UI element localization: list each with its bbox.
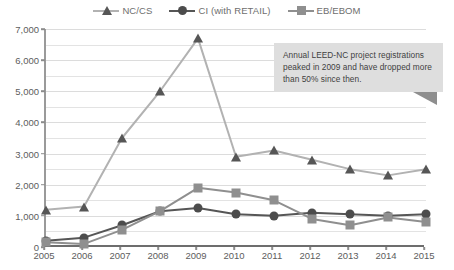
callout-box: Annual LEED-NC project registrations pea… — [274, 43, 443, 92]
square-icon — [288, 5, 314, 16]
data-point-eb-ebom[interactable] — [270, 196, 279, 205]
data-point-nc-cs[interactable] — [79, 202, 89, 211]
y-tick-label: 7,000 — [15, 24, 39, 35]
x-axis: 2005200620072008200920102011201220132014… — [44, 250, 424, 268]
data-point-nc-cs[interactable] — [345, 165, 355, 174]
data-point-eb-ebom[interactable] — [346, 221, 355, 230]
data-point-eb-ebom[interactable] — [308, 214, 317, 223]
x-tick-label: 2013 — [337, 250, 358, 261]
x-tick-mark — [157, 247, 159, 250]
y-tick-mark — [41, 59, 45, 61]
x-tick-mark — [43, 247, 45, 250]
y-tick-label: 4,000 — [15, 117, 39, 128]
data-point-eb-ebom[interactable] — [232, 188, 241, 197]
triangle-icon — [93, 5, 119, 16]
x-tick-label: 2008 — [147, 250, 168, 261]
chart-legend: NC/CS CI (with RETAIL) EB/EBOM — [0, 5, 454, 16]
data-point-eb-ebom[interactable] — [194, 183, 203, 192]
x-tick-label: 2007 — [109, 250, 130, 261]
data-point-nc-cs[interactable] — [117, 134, 127, 143]
data-point-ci-with-retail[interactable] — [346, 210, 355, 219]
x-tick-label: 2009 — [185, 250, 206, 261]
legend-entry-ci-retail[interactable]: CI (with RETAIL) — [169, 5, 270, 16]
legend-label-ci-retail: CI (with RETAIL) — [198, 5, 270, 16]
x-tick-label: 2015 — [413, 250, 434, 261]
data-point-eb-ebom[interactable] — [156, 207, 165, 216]
legend-label-nc-cs: NC/CS — [122, 5, 152, 16]
y-tick-mark — [41, 28, 45, 30]
x-tick-mark — [347, 247, 349, 250]
legend-label-eb-ebom: EB/EBOM — [317, 5, 361, 16]
y-tick-label: 1,000 — [15, 210, 39, 221]
x-tick-label: 2014 — [375, 250, 396, 261]
x-tick-mark — [423, 247, 425, 250]
x-tick-mark — [119, 247, 121, 250]
x-tick-label: 2012 — [299, 250, 320, 261]
data-point-nc-cs[interactable] — [231, 152, 241, 161]
y-tick-label: 3,000 — [15, 148, 39, 159]
y-tick-mark — [41, 184, 45, 186]
data-point-nc-cs[interactable] — [269, 146, 279, 155]
data-point-nc-cs[interactable] — [41, 205, 51, 214]
data-point-nc-cs[interactable] — [421, 165, 431, 174]
data-point-nc-cs[interactable] — [193, 34, 203, 43]
x-tick-label: 2011 — [262, 250, 282, 261]
legend-entry-nc-cs[interactable]: NC/CS — [93, 5, 152, 16]
chart-container: NC/CS CI (with RETAIL) EB/EBOM 01,0002,0… — [0, 0, 454, 270]
circle-icon — [169, 5, 195, 16]
data-point-eb-ebom[interactable] — [422, 218, 431, 227]
data-point-ci-with-retail[interactable] — [270, 211, 279, 220]
x-tick-label: 2005 — [33, 250, 54, 261]
data-point-eb-ebom[interactable] — [384, 213, 393, 222]
x-tick-mark — [271, 247, 273, 250]
y-tick-label: 2,000 — [15, 179, 39, 190]
x-tick-mark — [309, 247, 311, 250]
data-point-ci-with-retail[interactable] — [232, 210, 241, 219]
y-tick-mark — [41, 215, 45, 217]
data-point-ci-with-retail[interactable] — [194, 204, 203, 213]
legend-entry-eb-ebom[interactable]: EB/EBOM — [288, 5, 361, 16]
x-tick-label: 2010 — [223, 250, 244, 261]
x-tick-mark — [385, 247, 387, 250]
y-axis: 01,0002,0003,0004,0005,0006,0007,000 — [0, 29, 44, 247]
data-point-nc-cs[interactable] — [307, 155, 317, 164]
data-point-nc-cs[interactable] — [383, 171, 393, 180]
x-tick-mark — [233, 247, 235, 250]
y-tick-mark — [41, 153, 45, 155]
y-tick-mark — [41, 90, 45, 92]
data-point-nc-cs[interactable] — [155, 87, 165, 96]
callout-text: Annual LEED-NC project registrations pea… — [283, 50, 437, 85]
x-tick-label: 2006 — [71, 250, 92, 261]
x-tick-mark — [195, 247, 197, 250]
y-tick-label: 6,000 — [15, 55, 39, 66]
y-tick-label: 5,000 — [15, 86, 39, 97]
x-tick-mark — [81, 247, 83, 250]
data-point-eb-ebom[interactable] — [118, 225, 127, 234]
y-tick-mark — [41, 122, 45, 124]
